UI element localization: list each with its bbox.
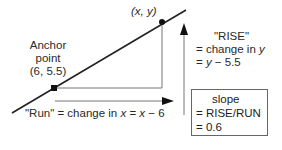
- anchor-label-line2: point: [20, 52, 76, 65]
- rise-label-line2: = change in y: [196, 43, 265, 56]
- slope-box-line2: = RISE/RUN: [196, 107, 261, 120]
- rise-label: "RISE" = change in y = y − 5.5: [196, 30, 265, 69]
- run-arrowhead-icon: [162, 97, 174, 105]
- anchor-label: Anchor point (6, 5.5): [20, 39, 76, 78]
- rise-line3-prefix: =: [196, 56, 206, 68]
- anchor-label-line3: (6, 5.5): [20, 65, 76, 78]
- point-xy-label: (x, y): [131, 5, 157, 18]
- anchor-point-marker: [51, 85, 57, 91]
- slope-box-line3: = 0.6: [196, 121, 222, 134]
- run-mid: =: [126, 107, 139, 119]
- anchor-label-line1: Anchor: [20, 39, 76, 52]
- run-prefix: "Run" = change in: [25, 107, 120, 119]
- rise-label-line3: = y − 5.5: [196, 56, 265, 69]
- run-rest: − 6: [145, 107, 165, 119]
- rise-line2-var: y: [259, 43, 265, 55]
- slope-box: slope = RISE/RUN = 0.6: [191, 89, 268, 136]
- run-label: "Run" = change in x = x − 6: [25, 107, 165, 120]
- rise-label-line1: "RISE": [196, 30, 265, 43]
- rise-line3-rest: − 5.5: [212, 56, 241, 68]
- slope-box-line1: slope: [212, 93, 240, 106]
- rise-arrowhead-icon: [180, 23, 188, 35]
- rise-line2-prefix: = change in: [196, 43, 259, 55]
- point-xy-marker: [159, 19, 165, 25]
